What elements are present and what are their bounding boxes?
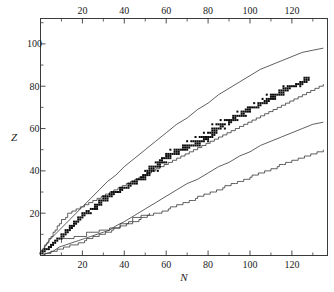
- plot-border: [41, 19, 328, 256]
- stability-marker: [171, 153, 173, 155]
- stability-marker: [46, 248, 48, 250]
- stability-marker: [148, 174, 150, 176]
- stability-marker: [73, 225, 75, 227]
- stability-marker: [283, 94, 285, 96]
- stability-marker: [65, 231, 67, 233]
- stability-marker: [67, 231, 69, 233]
- stability-marker: [88, 212, 90, 214]
- stability-marker: [205, 136, 207, 138]
- stability-marker: [96, 206, 98, 208]
- stability-marker: [83, 212, 85, 214]
- stability-marker: [195, 142, 197, 144]
- stability-marker: [121, 187, 123, 189]
- stability-marker: [157, 161, 159, 163]
- stability-marker: [151, 166, 153, 168]
- stability-marker: [295, 83, 297, 85]
- stability-marker: [104, 199, 106, 201]
- stability-marker: [226, 119, 228, 121]
- stability-marker: [213, 128, 215, 130]
- stability-marker: [215, 130, 217, 132]
- stability-marker: [142, 174, 144, 176]
- stability-marker: [220, 125, 222, 127]
- stability-marker: [107, 195, 109, 197]
- stability-marker: [155, 166, 157, 168]
- stability-marker: [77, 219, 79, 221]
- stability-marker: [42, 252, 44, 254]
- x-tick-label: 100: [242, 259, 257, 270]
- stability-marker: [234, 117, 236, 119]
- stability-marker: [127, 183, 129, 185]
- stability-marker: [107, 199, 109, 201]
- stability-marker: [86, 212, 88, 214]
- stability-marker: [79, 216, 81, 218]
- stability-marker: [228, 119, 230, 121]
- x-tick-label: 60: [161, 259, 171, 270]
- x-tick-label-top: 20: [77, 5, 87, 16]
- stability-marker: [195, 136, 197, 138]
- y-tick-label: 40: [30, 165, 40, 176]
- stability-marker: [192, 140, 194, 142]
- stability-marker: [234, 115, 236, 117]
- stability-marker: [167, 157, 169, 159]
- stability-marker: [96, 204, 98, 206]
- stability-marker: [243, 113, 245, 115]
- stability-marker: [176, 153, 178, 155]
- stability-marker: [111, 195, 113, 197]
- stability-marker: [186, 144, 188, 146]
- stability-marker: [186, 147, 188, 149]
- stability-marker: [211, 134, 213, 136]
- y-tick-label: 80: [30, 81, 40, 92]
- stability-marker: [266, 94, 268, 96]
- stability-marker: [199, 144, 201, 146]
- stability-marker: [167, 155, 169, 157]
- stability-marker: [113, 193, 115, 195]
- stability-marker: [280, 94, 282, 96]
- stability-marker: [211, 123, 213, 125]
- stability-marker: [266, 100, 268, 102]
- stability-marker: [94, 208, 96, 210]
- stability-marker: [77, 221, 79, 223]
- stability-marker: [163, 161, 165, 163]
- stability-marker: [104, 195, 106, 197]
- stability-marker: [159, 166, 161, 168]
- stability-marker: [157, 166, 159, 168]
- stability-marker: [40, 252, 42, 254]
- stability-marker: [148, 168, 150, 170]
- stability-marker: [255, 106, 257, 108]
- stability-marker: [178, 149, 180, 151]
- stability-marker: [148, 172, 150, 174]
- x-tick-label-top: 120: [284, 5, 299, 16]
- stability-marker: [259, 102, 261, 104]
- stability-marker: [207, 140, 209, 142]
- stability-marker: [165, 155, 167, 157]
- stability-marker: [209, 136, 211, 138]
- stability-marker: [247, 111, 249, 113]
- stability-marker: [157, 164, 159, 166]
- stability-marker: [140, 176, 142, 178]
- stability-marker: [44, 248, 46, 250]
- curve-proton-drip-line: [41, 48, 324, 251]
- stability-marker: [247, 108, 249, 110]
- stability-marker: [306, 81, 308, 83]
- stability-marker: [73, 223, 75, 225]
- stability-marker: [81, 212, 83, 214]
- stability-marker: [109, 193, 111, 195]
- stability-marker: [125, 187, 127, 189]
- stability-marker: [232, 115, 234, 117]
- stability-marker: [169, 157, 171, 159]
- stability-marker: [272, 94, 274, 96]
- stability-marker: [90, 212, 92, 214]
- stability-marker: [165, 157, 167, 159]
- stability-marker: [142, 178, 144, 180]
- stability-marker: [144, 176, 146, 178]
- stability-marker: [213, 130, 215, 132]
- stability-marker: [287, 85, 289, 87]
- stability-marker: [134, 180, 136, 182]
- stability-marker: [69, 225, 71, 227]
- stability-marker: [276, 94, 278, 96]
- stability-marker: [136, 178, 138, 180]
- stability-markers: [40, 77, 310, 255]
- stability-marker: [280, 92, 282, 94]
- stability-marker: [203, 138, 205, 140]
- stability-marker: [69, 227, 71, 229]
